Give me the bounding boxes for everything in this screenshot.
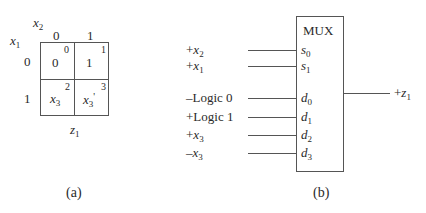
caption-a: (a) — [66, 186, 82, 200]
input-wire — [248, 98, 296, 99]
data-pin-label: d2 — [301, 128, 312, 141]
input-signal-label: +x3 — [186, 128, 204, 141]
input-signal-label: +x1 — [186, 59, 204, 72]
grid-divider-horizontal — [40, 79, 109, 80]
row-header-0: 0 — [24, 55, 31, 68]
column-header-1: 1 — [87, 29, 94, 42]
map-output-label: z1 — [70, 123, 80, 136]
column-variable-label: x2 — [33, 16, 43, 29]
input-signal-label: +Logic 1 — [186, 110, 233, 123]
output-wire — [344, 93, 390, 94]
input-signal-label: –x3 — [186, 146, 203, 159]
input-wire — [248, 66, 296, 67]
cell-3-index: 3 — [101, 82, 106, 92]
data-pin-label: d3 — [301, 146, 312, 159]
input-wire — [248, 135, 296, 136]
row-variable-label: x1 — [10, 34, 20, 47]
select-pin-label: s0 — [301, 43, 311, 56]
data-pin-label: d0 — [301, 91, 312, 104]
cell-2-index: 2 — [65, 82, 70, 92]
caption-b: (b) — [313, 186, 329, 200]
cell-2-value: x3 — [50, 92, 60, 105]
input-wire — [248, 153, 296, 154]
input-wire — [248, 50, 296, 51]
mux-title: MUX — [303, 24, 333, 37]
input-signal-label: +x2 — [186, 43, 204, 56]
input-wire — [248, 117, 296, 118]
output-signal-label: +z1 — [394, 86, 411, 99]
row-header-1: 1 — [24, 92, 31, 105]
select-pin-label: s1 — [301, 59, 311, 72]
cell-1-index: 1 — [101, 45, 106, 55]
input-signal-label: –Logic 0 — [186, 91, 233, 104]
data-pin-label: d1 — [301, 110, 312, 123]
cell-1-value: 1 — [86, 56, 93, 69]
cell-3-value: x3' — [83, 92, 95, 106]
cell-0-value: 0 — [52, 56, 59, 69]
cell-0-index: 0 — [64, 45, 69, 55]
column-header-0: 0 — [53, 29, 60, 42]
